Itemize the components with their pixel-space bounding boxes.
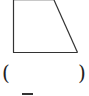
- open-parenthesis: (: [2, 62, 10, 84]
- close-parenthesis: ): [78, 62, 86, 84]
- trapezoid-figure: [0, 0, 89, 60]
- answer-blank[interactable]: [14, 66, 74, 84]
- bottom-partial-mark: [22, 93, 33, 95]
- trapezoid-slanted-edge: [54, 0, 78, 53]
